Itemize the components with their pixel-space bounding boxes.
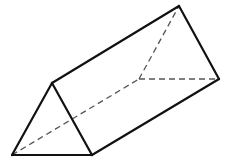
triangular-prism-diagram bbox=[0, 0, 225, 168]
